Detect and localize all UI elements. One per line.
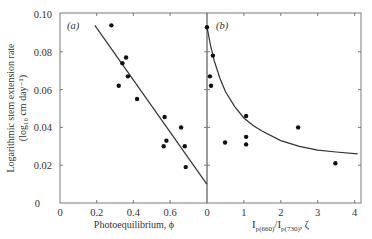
- data-point: [211, 53, 215, 57]
- tick-labels: 00.020.040.060.080.1000.20.40.601234: [34, 9, 358, 218]
- panel-a-data-points: [109, 23, 188, 169]
- data-point: [126, 74, 130, 78]
- data-point: [183, 165, 187, 169]
- panel-b-fit-curve: [207, 27, 358, 154]
- data-point: [333, 161, 337, 165]
- data-point: [109, 23, 113, 27]
- x-tick-label-b: 0: [204, 207, 209, 218]
- x-tick-label-a: 0.6: [164, 207, 177, 218]
- x-tick-label-b: 2: [278, 207, 283, 218]
- y-tick-label: 0.06: [34, 85, 52, 96]
- data-point: [244, 142, 248, 146]
- x-tick-label-a: 0: [57, 207, 62, 218]
- panel-a-regression-line: [95, 25, 207, 184]
- data-point: [244, 114, 248, 118]
- data-point: [124, 55, 128, 59]
- panel-a-frame: [60, 13, 207, 203]
- panel-b-data-points: [205, 25, 338, 165]
- data-point: [179, 125, 183, 129]
- y-tick-label: 0.02: [34, 160, 52, 171]
- data-point: [120, 61, 124, 65]
- y-axis-title: Logarithmic stem extension rate (log₁₀ c…: [5, 43, 29, 173]
- y-tick-label: 0.04: [34, 122, 53, 133]
- panel-a-label: (a): [67, 20, 80, 32]
- data-point: [244, 135, 248, 139]
- y-tick-label: 0.08: [34, 47, 52, 58]
- data-point: [135, 97, 139, 101]
- x-tick-label-a: 0.2: [90, 207, 103, 218]
- data-point: [205, 25, 209, 29]
- x-tick-label-a: 0.4: [127, 207, 141, 218]
- y-tick-label: 0.10: [34, 9, 52, 20]
- data-point: [117, 84, 121, 88]
- data-point: [161, 144, 165, 148]
- x-tick-label-b: 3: [315, 207, 320, 218]
- axis-ticks: [60, 13, 361, 203]
- x-tick-label-b: 4: [352, 207, 358, 218]
- data-point: [208, 74, 212, 78]
- data-point: [209, 84, 213, 88]
- y-axis-title-line2: (log₁₀ cm day⁻¹): [17, 75, 29, 141]
- panel-b-label: (b): [216, 20, 229, 32]
- panel-b-frame: [207, 13, 361, 203]
- x-title-b-sub1: p(660): [256, 225, 275, 233]
- x-tick-label-b: 1: [241, 207, 246, 218]
- figure: 00.020.040.060.080.1000.20.40.601234 (a)…: [0, 0, 372, 239]
- data-point: [183, 144, 187, 148]
- x-title-b-sub2: p(730): [281, 225, 300, 233]
- data-point: [223, 140, 227, 144]
- y-tick-label: 0: [35, 198, 40, 209]
- y-axis-title-line1: Logarithmic stem extension rate: [5, 43, 16, 173]
- x-axis-title-b: Ip(660)/Ip(730), ζ: [252, 218, 309, 233]
- x-axis-title-a: Photoequilibrium, ϕ: [94, 219, 174, 230]
- data-point: [296, 125, 300, 129]
- data-point: [164, 138, 168, 142]
- data-point: [162, 115, 166, 119]
- x-title-b-tail: , ζ: [300, 219, 309, 231]
